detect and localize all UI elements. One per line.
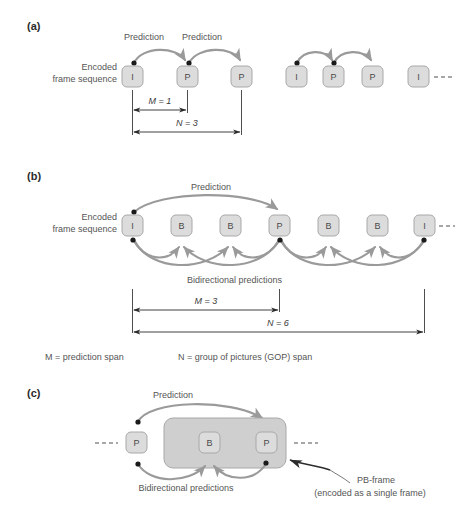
frame-box[interactable]: B xyxy=(199,432,220,453)
panel-b-bidirectional-arcs xyxy=(130,237,426,265)
frame-letter: I xyxy=(131,72,134,82)
panel-b-bidirectional-label: Bidirectional predictions xyxy=(187,275,283,285)
frame-letter: B xyxy=(206,438,212,448)
frame-box[interactable]: B xyxy=(318,215,339,236)
panel-a-label: (a) xyxy=(27,20,41,32)
panel-a-prediction-arc-4 xyxy=(334,52,371,63)
panel-c: (c) Prediction P B P xyxy=(27,387,426,498)
frame-letter: P xyxy=(133,438,139,448)
frame-box[interactable]: I xyxy=(122,66,143,87)
legend-n-definition: N = group of pictures (GOP) span xyxy=(178,352,312,362)
panel-a-anchor-dot-1 xyxy=(131,60,136,65)
frame-letter: B xyxy=(227,221,233,231)
panel-b-anchor-dot-bot-3 xyxy=(421,237,426,242)
panel-b-prediction-label: Prediction xyxy=(191,182,231,192)
frame-letter: P xyxy=(263,438,269,448)
panel-c-bidirectional-label: Bidirectional predictions xyxy=(138,483,234,493)
panel-a-prediction-label-2: Prediction xyxy=(182,32,222,42)
bidir-arc xyxy=(184,241,279,265)
panel-c-anchor-dot-bot-2 xyxy=(263,460,268,465)
frame-letter: P xyxy=(330,72,336,82)
panel-b-frames: I B B P B xyxy=(122,215,435,236)
panel-a-prediction-arc-1 xyxy=(134,50,185,63)
pb-frame-callout-arrow xyxy=(290,460,330,470)
panel-b-prediction-arc xyxy=(134,195,277,212)
frame-box[interactable]: P xyxy=(362,66,383,87)
frame-box[interactable]: I xyxy=(408,66,429,87)
frame-box[interactable]: P xyxy=(256,432,277,453)
panel-b: (b) Encoded frame sequence Prediction I … xyxy=(27,170,455,333)
panel-b-anchor-dot-bot-2 xyxy=(277,237,282,242)
panel-a: (a) Encoded frame sequence Prediction Pr… xyxy=(27,20,452,135)
panel-b-sequence-label-line1: Encoded xyxy=(81,212,117,222)
bidir-arc xyxy=(331,241,424,265)
frame-box[interactable]: B xyxy=(367,215,388,236)
bidir-arc xyxy=(281,241,375,265)
frame-box[interactable]: B xyxy=(220,215,241,236)
panel-a-prediction-arc-3 xyxy=(297,52,332,63)
panel-c-anchor-dot-top xyxy=(135,419,140,424)
panel-b-anchor-dot-top-1 xyxy=(131,209,136,214)
panel-a-anchor-dot-3 xyxy=(294,60,299,65)
frame-letter: I xyxy=(131,221,134,231)
frame-box[interactable]: P xyxy=(126,432,147,453)
frame-letter: P xyxy=(238,72,244,82)
figure-root: (a) Encoded frame sequence Prediction Pr… xyxy=(0,0,459,520)
frame-box[interactable]: I xyxy=(122,215,143,236)
frame-letter: B xyxy=(325,221,331,231)
frame-box[interactable]: B xyxy=(171,215,192,236)
panel-c-prediction-label: Prediction xyxy=(153,390,193,400)
frame-letter: P xyxy=(184,72,190,82)
frame-box[interactable]: P xyxy=(323,66,344,87)
panel-c-label: (c) xyxy=(27,387,41,399)
legend: M = prediction span N = group of picture… xyxy=(45,352,312,362)
panel-a-frames: I P P I P xyxy=(122,66,429,87)
panel-c-anchor-dot-bot-1 xyxy=(135,461,140,466)
panel-a-span-n-label: N = 3 xyxy=(176,118,198,128)
frame-box[interactable]: I xyxy=(414,215,435,236)
bidir-arc xyxy=(134,241,228,265)
panel-a-anchor-dot-4 xyxy=(331,60,336,65)
panel-b-span-n-label: N = 6 xyxy=(267,318,289,328)
legend-m-definition: M = prediction span xyxy=(45,352,124,362)
diagram-canvas: (a) Encoded frame sequence Prediction Pr… xyxy=(0,0,459,520)
panel-a-prediction-arc-2 xyxy=(189,50,240,63)
panel-b-sequence-label-line2: frame sequence xyxy=(52,224,117,234)
frame-letter: I xyxy=(423,221,426,231)
panel-b-label: (b) xyxy=(27,170,41,182)
panel-a-prediction-label-1: Prediction xyxy=(124,32,164,42)
panel-a-sequence-label-line1: Encoded xyxy=(81,62,117,72)
frame-box[interactable]: P xyxy=(269,215,290,236)
frame-letter: P xyxy=(276,221,282,231)
panel-a-anchor-dot-2 xyxy=(186,60,191,65)
panel-b-anchor-dot-bot-1 xyxy=(130,237,135,242)
pb-frame-callout-line1: PB-frame xyxy=(357,475,395,485)
panel-a-span-m-label: M = 1 xyxy=(149,96,172,106)
panel-b-span-m-label: M = 3 xyxy=(195,296,218,306)
panel-a-sequence-label-line2: frame sequence xyxy=(52,74,117,84)
pb-frame-callout-line2: (encoded as a single frame) xyxy=(314,488,426,498)
frame-letter: I xyxy=(417,72,420,82)
frame-letter: I xyxy=(295,72,298,82)
frame-letter: B xyxy=(374,221,380,231)
frame-box[interactable]: P xyxy=(231,66,252,87)
frame-letter: P xyxy=(369,72,375,82)
frame-letter: B xyxy=(178,221,184,231)
pb-frame-callout-leader xyxy=(330,470,350,483)
frame-box[interactable]: I xyxy=(286,66,307,87)
frame-box[interactable]: P xyxy=(177,66,198,87)
